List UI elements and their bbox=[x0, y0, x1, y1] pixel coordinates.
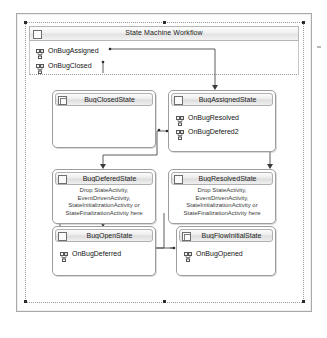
state-title: BugResolvedState bbox=[186, 175, 269, 182]
root-event-label: OnBugAssigned bbox=[48, 47, 99, 54]
state-header[interactable]: BugAssignedState bbox=[171, 93, 273, 106]
state-drop-hint: Drop StateActivity, EventDrivenActivity,… bbox=[55, 187, 153, 217]
state-header[interactable]: BugFlowInitialState bbox=[179, 229, 273, 242]
state-header[interactable]: BugDeferedState bbox=[55, 172, 153, 185]
selection-handle-top-center[interactable] bbox=[163, 21, 166, 24]
state-body[interactable]: Drop StateActivity, EventDrivenActivity,… bbox=[171, 186, 273, 221]
state-event-label: OnBugOpened bbox=[196, 250, 243, 257]
drop-hint-line-3: StateInitializationActivity or bbox=[55, 202, 153, 210]
state-title: BugAssignedState bbox=[186, 96, 269, 103]
selection-handle-top-left[interactable] bbox=[24, 21, 27, 24]
root-event-handlers-region: OnBugAssigned OnBugClosed bbox=[29, 41, 299, 75]
drop-hint-line-1: Drop StateActivity, bbox=[55, 187, 153, 195]
workflow-title-bar[interactable]: State Machine Workflow bbox=[29, 26, 299, 41]
state-icon bbox=[174, 175, 183, 184]
root-event-onbugclosed[interactable]: OnBugClosed bbox=[35, 59, 92, 71]
designer-canvas: State Machine Workflow OnBugAssigned bbox=[0, 0, 327, 338]
root-event-label: OnBugClosed bbox=[48, 62, 92, 69]
state-body[interactable]: OnBugResolved OnBugDefered2 bbox=[171, 107, 273, 149]
state-body[interactable]: Drop StateActivity, EventDrivenActivity,… bbox=[55, 186, 153, 221]
state-title: BugClosedState bbox=[70, 96, 149, 103]
state-body[interactable]: OnBugOpened bbox=[179, 243, 273, 273]
event-handler-icon bbox=[35, 60, 45, 70]
state-title: BugDeferedState bbox=[70, 175, 149, 182]
state-event-onbugdeferred[interactable]: OnBugDeferred bbox=[59, 247, 121, 259]
root-event-onbugassigned[interactable]: OnBugAssigned bbox=[35, 44, 99, 56]
selection-handle-bottom-right[interactable] bbox=[302, 300, 305, 303]
initial-state-icon bbox=[58, 96, 67, 105]
scan-artifact-mark bbox=[317, 46, 321, 48]
drop-hint-line-4: StateFinalizationActivity here bbox=[171, 210, 273, 218]
selection-handle-top-right[interactable] bbox=[302, 21, 305, 24]
state-title: BugFlowInitialState bbox=[194, 232, 269, 239]
state-event-label: OnBugDefered2 bbox=[188, 128, 239, 135]
state-header[interactable]: BugResolvedState bbox=[171, 172, 273, 185]
state-bug-flow-initial-state[interactable]: BugFlowInitialState OnBugOpened bbox=[176, 226, 276, 276]
selection-handle-bottom-center[interactable] bbox=[163, 300, 166, 303]
drop-hint-line-2: EventDrivenActivity, bbox=[55, 195, 153, 203]
state-event-label: OnBugDeferred bbox=[72, 250, 121, 257]
state-body[interactable] bbox=[55, 107, 153, 145]
state-bug-assigned-state[interactable]: BugAssignedState OnBugResolved bbox=[168, 90, 276, 152]
event-handler-icon bbox=[59, 248, 69, 258]
state-bug-closed-state[interactable]: BugClosedState bbox=[52, 90, 156, 148]
state-event-label: OnBugResolved bbox=[188, 114, 239, 121]
event-handler-icon bbox=[35, 45, 45, 55]
state-title: BugOpenState bbox=[70, 232, 149, 239]
state-event-onbugresolved[interactable]: OnBugResolved bbox=[175, 111, 239, 123]
event-handler-icon bbox=[183, 248, 193, 258]
state-icon bbox=[58, 175, 67, 184]
initial-state-icon bbox=[182, 232, 191, 241]
state-header[interactable]: BugClosedState bbox=[55, 93, 153, 106]
state-body[interactable]: OnBugDeferred bbox=[55, 243, 153, 273]
state-event-onbugdefered2[interactable]: OnBugDefered2 bbox=[175, 125, 239, 137]
state-event-onbugopened[interactable]: OnBugOpened bbox=[183, 247, 243, 259]
event-handler-icon bbox=[175, 112, 185, 122]
state-drop-hint: Drop StateActivity, EventDrivenActivity,… bbox=[171, 187, 273, 217]
drop-hint-line-1: Drop StateActivity, bbox=[171, 187, 273, 195]
state-header[interactable]: BugOpenState bbox=[55, 229, 153, 242]
state-bug-resolved-state[interactable]: BugResolvedState Drop StateActivity, Eve… bbox=[168, 169, 276, 224]
state-icon bbox=[174, 96, 183, 105]
event-handler-icon bbox=[175, 126, 185, 136]
selection-handle-bottom-left[interactable] bbox=[24, 300, 27, 303]
state-icon bbox=[58, 232, 67, 241]
state-bug-deferred-state[interactable]: BugDeferedState Drop StateActivity, Even… bbox=[52, 169, 156, 224]
workflow-title: State Machine Workflow bbox=[30, 29, 298, 36]
state-bug-open-state[interactable]: BugOpenState OnBugDeferred bbox=[52, 226, 156, 276]
drop-hint-line-4: StateFinalizationActivity here bbox=[55, 210, 153, 218]
drop-hint-line-3: StateInitializationActivity or bbox=[171, 202, 273, 210]
drop-hint-line-2: EventDrivenActivity, bbox=[171, 195, 273, 203]
